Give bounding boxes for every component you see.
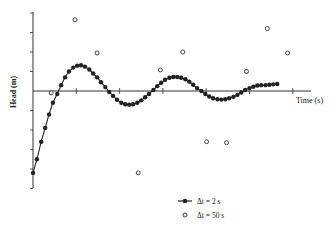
- data-point: [111, 94, 115, 98]
- data-point: [155, 84, 159, 88]
- legend-item-dt-50s: Δt = 50 s: [183, 211, 224, 220]
- data-point: [195, 86, 199, 90]
- data-point: [251, 85, 255, 89]
- data-point: [79, 63, 83, 67]
- chart: Head (m) Time (s) Δt = 2 s Δt = 50 s: [0, 0, 335, 229]
- data-point: [223, 97, 227, 101]
- data-point: [39, 140, 43, 144]
- data-point: [207, 94, 211, 98]
- data-point: [99, 80, 103, 84]
- data-point: [163, 77, 167, 81]
- data-point: [271, 82, 275, 86]
- data-point: [95, 75, 99, 79]
- data-point: [31, 171, 35, 175]
- data-point: [73, 18, 77, 22]
- legend-label: Δt = 2 s: [197, 197, 221, 206]
- data-point: [49, 91, 53, 95]
- data-point: [136, 171, 140, 175]
- data-point: [187, 79, 191, 83]
- data-point: [265, 27, 269, 31]
- data-point: [235, 93, 239, 97]
- data-point: [243, 88, 247, 92]
- data-point: [211, 96, 215, 100]
- data-point: [263, 83, 267, 87]
- data-point: [67, 69, 71, 73]
- data-point: [59, 83, 63, 87]
- data-point: [167, 76, 171, 80]
- data-point: [203, 92, 207, 96]
- data-point: [95, 51, 99, 55]
- y-axis-label: Head (m): [9, 76, 18, 109]
- data-point: [119, 101, 123, 105]
- data-point: [171, 75, 175, 79]
- data-point: [103, 85, 107, 89]
- data-point: [143, 95, 147, 99]
- data-point: [225, 141, 229, 145]
- data-point: [35, 157, 39, 161]
- data-point: [75, 63, 79, 67]
- legend-item-dt-2s: Δt = 2 s: [178, 197, 221, 206]
- data-point: [244, 70, 248, 74]
- data-point: [83, 64, 87, 68]
- data-point: [71, 65, 75, 69]
- data-point: [247, 86, 251, 90]
- data-point: [179, 76, 183, 80]
- data-point: [255, 83, 259, 87]
- data-point: [199, 89, 203, 93]
- data-point: [227, 96, 231, 100]
- data-point: [51, 101, 55, 105]
- data-point: [181, 50, 185, 54]
- data-point: [183, 77, 187, 81]
- data-point: [151, 88, 155, 92]
- data-point: [131, 102, 135, 106]
- legend: Δt = 2 s Δt = 50 s: [178, 197, 224, 220]
- x-axis-label: Time (s): [296, 96, 323, 105]
- data-point: [191, 83, 195, 87]
- data-point: [63, 75, 67, 79]
- data-point: [205, 140, 209, 144]
- data-point: [267, 83, 271, 87]
- data-point: [135, 101, 139, 105]
- data-point: [286, 51, 290, 55]
- data-point: [231, 95, 235, 99]
- data-point: [139, 98, 143, 102]
- data-point: [147, 92, 151, 96]
- axes: [30, 12, 311, 189]
- data-point: [158, 68, 162, 72]
- data-point: [123, 102, 127, 106]
- data-point: [87, 67, 91, 71]
- data-point: [107, 90, 111, 94]
- data-point: [215, 97, 219, 101]
- filled-circle-icon: [183, 199, 188, 204]
- data-point: [259, 83, 263, 87]
- open-circle-icon: [183, 213, 187, 217]
- data-point: [115, 98, 119, 102]
- data-point: [91, 71, 95, 75]
- data-point: [43, 126, 47, 130]
- series-dt-2s: [31, 63, 280, 175]
- series-line: [33, 65, 277, 173]
- data-point: [219, 97, 223, 101]
- data-point: [55, 92, 59, 96]
- series-dt-50s: [49, 18, 289, 175]
- data-point: [47, 112, 51, 116]
- data-point: [127, 102, 131, 106]
- data-point: [275, 82, 279, 86]
- data-point: [175, 75, 179, 79]
- legend-label: Δt = 50 s: [197, 211, 224, 220]
- data-point: [239, 90, 243, 94]
- data-point: [159, 81, 163, 85]
